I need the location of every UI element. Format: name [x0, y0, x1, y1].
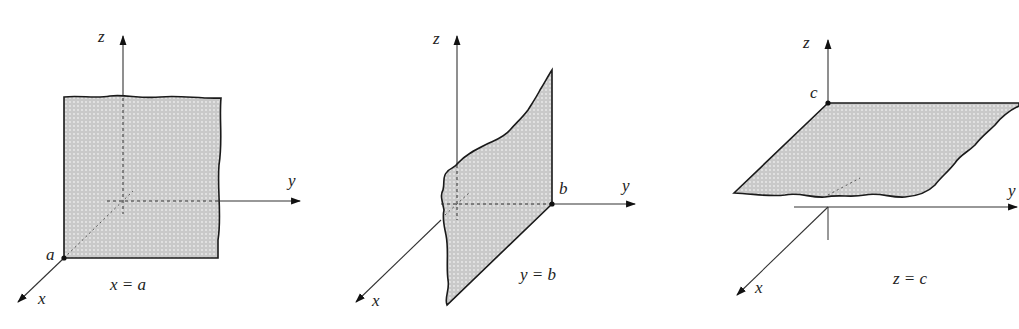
planes-figure: z y x a x = a z y x b y = b z y x c z = … [0, 0, 1019, 329]
y-label: y [1006, 181, 1016, 200]
plane-x-a [64, 96, 221, 258]
point-c [825, 100, 830, 105]
x-label: x [37, 289, 46, 308]
x-label: x [371, 291, 380, 310]
point-a-label: a [46, 245, 55, 264]
x-label: x [754, 278, 763, 297]
x-axis [356, 220, 441, 302]
plane-z-c [734, 103, 1019, 197]
z-label: z [802, 33, 810, 52]
z-label: z [432, 29, 440, 48]
caption-y-b: y = b [518, 265, 556, 284]
y-label: y [620, 176, 630, 195]
z-label: z [97, 27, 105, 46]
point-b-label: b [559, 179, 568, 198]
point-a [61, 255, 66, 260]
caption-z-c: z = c [892, 269, 928, 288]
panel-z-equals-c: z y x c z = c [734, 33, 1019, 297]
panel-x-equals-a: z y x a x = a [18, 27, 300, 308]
caption-x-a: x = a [109, 275, 146, 294]
point-b [549, 201, 554, 206]
point-c-label: c [810, 83, 818, 102]
panel-y-equals-b: z y x b y = b [356, 29, 635, 310]
y-label: y [286, 171, 296, 190]
x-axis [737, 207, 828, 295]
